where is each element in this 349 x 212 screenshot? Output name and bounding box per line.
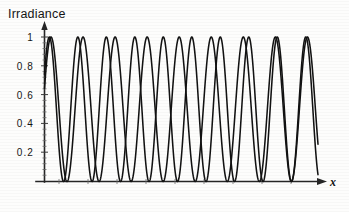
irradiance-figure: Irradiance [0, 0, 349, 212]
y-axis-arrow [41, 21, 47, 30]
y-tick-label-1: 1 [27, 32, 34, 43]
y-tick-label-02: 0.2 [17, 147, 34, 158]
x-axis-label: x [329, 175, 336, 189]
y-tick-label-08: 0.8 [17, 61, 34, 72]
x-axis [36, 178, 327, 185]
x-axis-arrow [317, 178, 327, 185]
irradiance-curve-1 [45, 37, 319, 182]
y-tick-label-06: 0.6 [17, 90, 34, 101]
y-tick-label-04: 0.4 [17, 118, 34, 129]
page-title: Irradiance [8, 7, 66, 21]
plot-canvas: Irradiance [0, 0, 349, 212]
